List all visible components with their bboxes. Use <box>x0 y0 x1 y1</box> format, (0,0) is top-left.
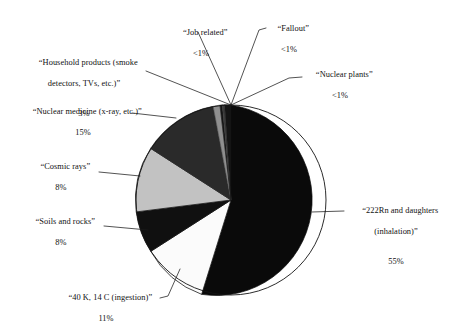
label-soils-and-rocks: “Soils and rocks” 8% <box>16 207 106 268</box>
label-nuclear-medicine-text: “Nuclear medicine (x-ray, etc.)” <box>33 107 142 116</box>
label-cosmic-rays-text: “Cosmic rays” <box>40 162 90 171</box>
label-fallout-text: “Fallout” <box>277 24 309 33</box>
label-radon: “222Rn and daughters (inhalation)” 55% <box>344 196 448 288</box>
label-soils-and-rocks-text: “Soils and rocks” <box>36 217 95 226</box>
label-radon-text-line2: (inhalation)” <box>344 227 448 237</box>
label-ingestion-text: “40 K, 14 C (ingestion)” <box>68 293 152 302</box>
pie-slices <box>135 105 326 296</box>
label-radon-percent: 55% <box>344 257 448 267</box>
label-job-related-percent: <1% <box>153 49 249 59</box>
label-job-related: “Job related” <1% <box>153 18 249 79</box>
label-cosmic-rays-percent: 8% <box>22 183 100 193</box>
label-nuclear-plants: “Nuclear plants” <1% <box>285 60 395 121</box>
label-job-related-text: “Job related” <box>183 28 228 37</box>
leader-line-radon <box>312 211 344 212</box>
label-household-products-text-line1: “Household products (smoke <box>39 58 138 67</box>
label-nuclear-plants-percent: <1% <box>285 91 395 101</box>
label-soils-and-rocks-percent: 8% <box>16 238 106 248</box>
label-cosmic-rays: “Cosmic rays” 8% <box>22 152 100 213</box>
label-radon-text-line1: “222Rn and daughters <box>362 206 438 215</box>
label-nuclear-medicine-percent: 15% <box>4 128 162 138</box>
label-household-products-text-line2: detectors, TVs, etc.)” <box>6 79 162 89</box>
leader-line-cosmic-rays <box>99 172 140 176</box>
label-ingestion-percent: 11% <box>48 314 164 324</box>
label-fallout-percent: <1% <box>249 45 329 55</box>
label-nuclear-plants-text: “Nuclear plants” <box>316 70 373 79</box>
label-nuclear-medicine: “Nuclear medicine (x-ray, etc.)” 15% <box>4 97 162 158</box>
label-ingestion: “40 K, 14 C (ingestion)” 11% <box>48 283 164 325</box>
